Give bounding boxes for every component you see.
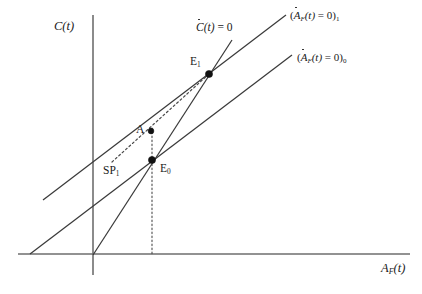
sp1-text: SP — [103, 164, 116, 176]
curve-label-c-dot-zero: C(t) = 0 — [196, 22, 233, 34]
sp1-index: 1 — [116, 169, 120, 178]
point-label-e0: E0 — [160, 163, 171, 175]
point-label-a: A — [136, 124, 144, 136]
a-dot-1-equals: = 0 — [315, 9, 332, 21]
curve-label-a-dot-zero-1: (AF(t) = 0)1 — [290, 10, 340, 23]
x-axis-label-arg: (t) — [394, 261, 406, 275]
x-axis-label: AF(t) — [381, 262, 405, 276]
x-axis-label-var: A — [381, 261, 389, 275]
phase-diagram-canvas — [0, 0, 422, 294]
curve-label-saddle-path-sp1: SP1 — [103, 165, 119, 177]
a-dot-1-arg: (t) — [305, 9, 315, 21]
a-dot-0-arg: (t) — [312, 51, 322, 63]
point-marker-e0 — [148, 156, 155, 163]
curve-label-a-dot-zero-0: (AF(t) = 0)0 — [297, 52, 347, 65]
y-axis-label: C(t) — [54, 20, 74, 33]
point-label-a-text: A — [136, 123, 144, 135]
point-marker-a — [148, 128, 154, 134]
c-dot-equals: = 0 — [215, 21, 233, 33]
saddle-path-sp1 — [112, 74, 209, 162]
c-dot-variable: C — [196, 22, 204, 34]
point-label-e1-text: E — [190, 55, 197, 67]
a-dot-0-index: 0 — [343, 57, 347, 65]
a-dot-1-variable: A — [294, 10, 301, 21]
c-dot-arg: (t) — [204, 21, 215, 33]
point-label-e0-text: E — [160, 162, 167, 174]
point-label-e0-index: 0 — [167, 167, 171, 176]
a-dot-1-index: 1 — [336, 15, 340, 23]
curve-a-dot-zero-0 — [30, 55, 292, 254]
point-label-e1: E1 — [190, 56, 201, 68]
a-dot-0-equals: = 0 — [322, 51, 339, 63]
point-marker-e1 — [205, 70, 212, 77]
point-label-e1-index: 1 — [197, 60, 201, 69]
phase-diagram-figure: C(t) AF(t) C(t) = 0 (AF(t) = 0)1 (AF(t) … — [0, 0, 422, 294]
y-axis-label-arg: (t) — [62, 19, 74, 33]
a-dot-0-variable: A — [301, 52, 308, 63]
